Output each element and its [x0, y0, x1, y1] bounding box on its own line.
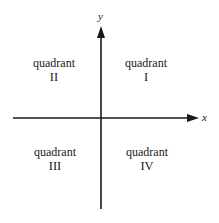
quadrant-numeral: III [20, 159, 90, 173]
y-axis-arrow-icon [97, 26, 105, 38]
quadrant-ii-label: quadrant II [19, 56, 89, 84]
x-axis-label: x [202, 112, 207, 123]
quadrant-word: quadrant [34, 145, 76, 159]
quadrant-iv-label: quadrant IV [112, 145, 182, 173]
quadrant-word: quadrant [126, 145, 168, 159]
quadrant-word: quadrant [125, 56, 167, 70]
coordinate-plane-diagram: y x quadrant II quadrant I quadrant III … [0, 0, 219, 223]
quadrant-word: quadrant [33, 56, 75, 70]
x-axis-arrow-icon [187, 114, 199, 122]
quadrant-iii-label: quadrant III [20, 145, 90, 173]
quadrant-i-label: quadrant I [111, 56, 181, 84]
y-axis-label: y [98, 11, 103, 22]
quadrant-numeral: IV [112, 159, 182, 173]
quadrant-numeral: I [111, 70, 181, 84]
axes-graphic [0, 0, 219, 223]
quadrant-numeral: II [19, 70, 89, 84]
